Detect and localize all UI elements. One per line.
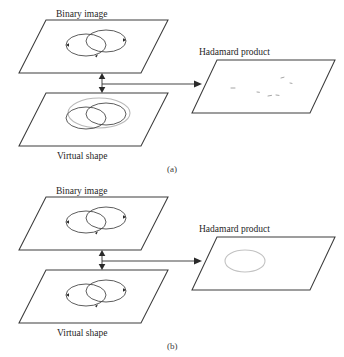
panel-b-binary-image-label: Binary image — [56, 186, 107, 196]
panel-a-vertical-arrow-up — [99, 73, 106, 79]
panel-b-connectors — [99, 250, 202, 270]
panel-b-binary-image-plane — [19, 197, 168, 250]
panel-a-hadamard-product-plane — [192, 60, 335, 113]
panel-a-virtual-shape-plane — [19, 93, 168, 146]
panel-a-binary-image-plane — [19, 20, 168, 73]
panel-b-vertical-arrow-up — [99, 250, 106, 256]
panel-a-connectors — [99, 73, 202, 93]
panel-b-hadamard-product-plane — [192, 237, 335, 290]
figure-panel-a: Binary image Virtual shape — [0, 0, 344, 180]
hadamard-product-plane-surface — [192, 60, 335, 113]
binary-image-plane-surface — [19, 197, 168, 250]
panel-b-vertical-arrow-down — [99, 264, 106, 270]
panel-b-horizontal-arrow-head — [194, 258, 202, 265]
panel-b-virtual-shape-label: Virtual shape — [57, 328, 107, 338]
panel-b-virtual-shape-plane — [19, 270, 168, 323]
panel-a-hadamard-product-label: Hadamard product — [199, 47, 270, 57]
panel-a-binary-image-label: Binary image — [56, 9, 107, 19]
virtual-shape-plane-surface — [19, 270, 168, 323]
panel-a-virtual-shape-label: Virtual shape — [57, 151, 107, 161]
hadamard-product-plane-surface — [192, 237, 335, 290]
panel-b-hadamard-product-label: Hadamard product — [199, 224, 270, 234]
figure-root: Binary image Virtual shape — [0, 0, 344, 357]
panel-a-vertical-arrow-down — [99, 87, 106, 93]
figure-panel-b: Binary image Virtual shape — [0, 177, 344, 357]
binary-image-plane-surface — [19, 20, 168, 73]
panel-a-canvas: Binary image Virtual shape — [0, 0, 344, 180]
panel-a-caption: (a) — [167, 164, 177, 174]
panel-b-caption: (b) — [167, 341, 178, 351]
panel-b-canvas: Binary image Virtual shape — [0, 177, 344, 357]
virtual-shape-plane-surface — [19, 93, 168, 146]
panel-a-horizontal-arrow-head — [194, 81, 202, 88]
